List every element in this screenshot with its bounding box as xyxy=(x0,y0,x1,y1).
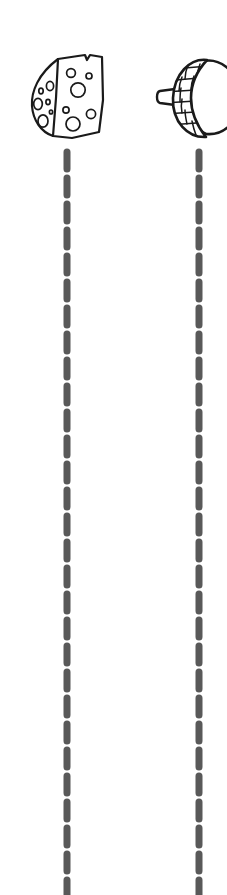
cheese-hole xyxy=(86,109,95,118)
cheese-hole xyxy=(86,73,92,79)
cheese-hole xyxy=(39,88,43,94)
cheese-hole xyxy=(46,81,53,90)
cheese-hole xyxy=(49,110,52,114)
acorn-illustration xyxy=(150,50,227,146)
cheese-hole xyxy=(67,69,76,78)
cheese-hole xyxy=(38,115,48,127)
cheese-hole xyxy=(46,99,50,104)
cheese-hole xyxy=(71,83,85,97)
cheese-wedge-illustration xyxy=(23,48,111,148)
worksheet-page xyxy=(0,0,227,895)
cheese-hole xyxy=(34,98,43,109)
cheese-hole xyxy=(66,117,80,131)
cheese-hole xyxy=(63,107,69,113)
